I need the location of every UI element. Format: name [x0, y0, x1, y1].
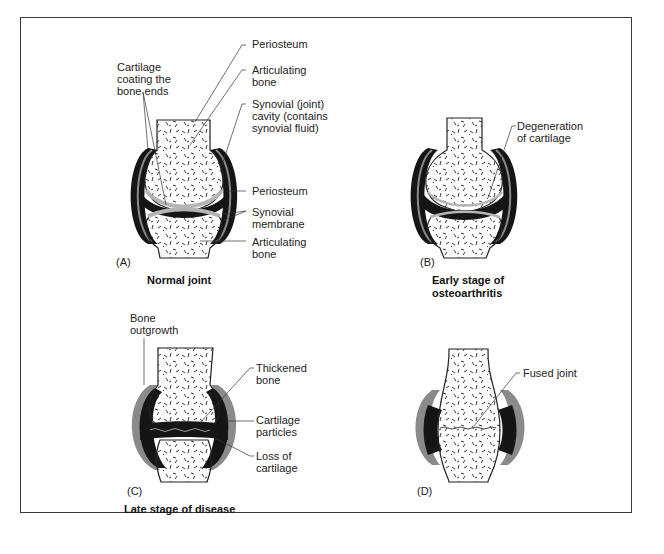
caption-late-stage: Late stage of disease	[124, 503, 235, 516]
label-degeneration-of-cartilage: Degeneration of cartilage	[517, 120, 583, 144]
label-periosteum-top: Periosteum	[252, 38, 308, 50]
label-thickened-bone: Thickened bone	[256, 362, 307, 386]
joint-illustrations	[0, 0, 664, 554]
label-cartilage-particles: Cartilage particles	[256, 414, 300, 438]
panel-letter-a: (A)	[116, 256, 131, 268]
label-articulating-bone-top: Articulating bone	[252, 64, 306, 88]
caption-normal-joint: Normal joint	[147, 274, 211, 287]
joint-c-late	[132, 338, 254, 482]
label-cartilage-coating: Cartilage coating the bone ends	[117, 61, 171, 97]
caption-early-stage: Early stage of osteoarthritis	[432, 274, 504, 300]
label-synovial-cavity: Synovial (joint) cavity (contains synovi…	[252, 98, 328, 134]
label-periosteum-mid: Periosteum	[252, 185, 308, 197]
joint-d-fused	[416, 349, 525, 482]
label-loss-of-cartilage: Loss of cartilage	[256, 450, 298, 474]
joint-b-early	[411, 118, 518, 258]
label-bone-outgrowth: Bone outgrowth	[130, 312, 178, 336]
panel-letter-d: (D)	[417, 485, 432, 497]
panel-letter-c: (C)	[127, 485, 142, 497]
panel-letter-b: (B)	[420, 256, 435, 268]
label-synovial-membrane: Synovial membrane	[252, 206, 305, 230]
label-fused-joint: Fused joint	[523, 367, 577, 379]
label-articulating-bone-bottom: Articulating bone	[252, 236, 306, 260]
